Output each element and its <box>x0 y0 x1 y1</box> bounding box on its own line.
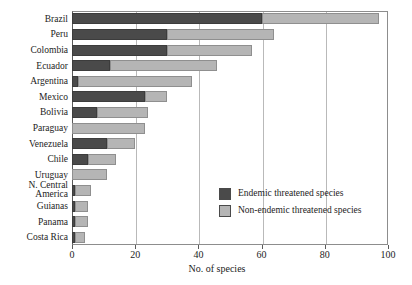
bar-segment-endemic <box>72 29 167 40</box>
y-axis-label: Panama <box>0 217 68 227</box>
bar-segment-non-endemic <box>145 91 167 102</box>
legend-swatch-non-endemic <box>219 205 231 217</box>
bar-segment-endemic <box>72 154 88 165</box>
x-tick-label: 0 <box>70 249 75 261</box>
legend-item-non-endemic: Non-endemic threatened species <box>219 204 379 217</box>
y-axis-category-labels: BrazilPeruColombiaEcuadorArgentinaMexico… <box>0 11 68 245</box>
y-axis-label: Guianas <box>0 201 68 211</box>
bar-segment-non-endemic <box>88 154 116 165</box>
bar-row <box>72 138 388 149</box>
bar-segment-non-endemic <box>167 45 252 56</box>
bar-row <box>72 232 388 243</box>
y-axis-label: Bolivia <box>0 107 68 117</box>
bar-segment-non-endemic <box>72 123 145 134</box>
bar-segment-endemic <box>72 107 97 118</box>
bar-row <box>72 154 388 165</box>
bar-segment-non-endemic <box>110 60 217 71</box>
bar-segment-non-endemic <box>107 138 135 149</box>
bar-segment-non-endemic <box>167 29 274 40</box>
bar-segment-non-endemic <box>75 201 88 212</box>
chart-legend: Endemic threatened species Non-endemic t… <box>219 187 379 221</box>
x-tick-label: 40 <box>193 249 203 261</box>
bar-segment-endemic <box>72 60 110 71</box>
bar-segment-non-endemic <box>97 107 148 118</box>
x-tick-label: 80 <box>320 249 330 261</box>
legend-label-non-endemic: Non-endemic threatened species <box>238 205 361 216</box>
bar-segment-non-endemic <box>75 185 91 196</box>
bar-segment-endemic <box>72 91 145 102</box>
bar-row <box>72 13 388 24</box>
y-axis-label: Chile <box>0 154 68 164</box>
bar-row <box>72 76 388 87</box>
y-axis-label: Ecuador <box>0 61 68 71</box>
y-axis-label: Peru <box>0 29 68 39</box>
y-axis-label: Costa Rica <box>0 232 68 242</box>
bar-row <box>72 29 388 40</box>
bar-row <box>72 91 388 102</box>
bar-segment-endemic <box>72 138 107 149</box>
legend-label-endemic: Endemic threatened species <box>238 188 344 199</box>
bar-row <box>72 123 388 134</box>
y-axis-label: Paraguay <box>0 123 68 133</box>
y-axis-label: Colombia <box>0 45 68 55</box>
legend-item-endemic: Endemic threatened species <box>219 187 379 200</box>
y-axis-label: Mexico <box>0 92 68 102</box>
chart-figure: BrazilPeruColombiaEcuadorArgentinaMexico… <box>0 0 412 285</box>
bar-row <box>72 45 388 56</box>
bar-segment-non-endemic <box>75 232 84 243</box>
bar-segment-endemic <box>72 45 167 56</box>
bar-segment-endemic <box>72 13 262 24</box>
bar-segment-non-endemic <box>72 169 107 180</box>
legend-swatch-endemic <box>219 188 231 200</box>
y-axis-label: N. Central America <box>0 181 68 200</box>
y-axis-label: Argentina <box>0 76 68 86</box>
x-axis-title-text: No. of species <box>189 263 246 274</box>
bar-segment-non-endemic <box>75 216 88 227</box>
y-axis-label: Brazil <box>0 14 68 24</box>
x-tick-label: 20 <box>130 249 140 261</box>
x-tick-label: 100 <box>381 249 396 261</box>
bar-row <box>72 107 388 118</box>
x-tick-label: 60 <box>257 249 267 261</box>
y-axis-label: Uruguay <box>0 170 68 180</box>
y-axis-label: Venezuela <box>0 139 68 149</box>
bar-row <box>72 60 388 71</box>
bar-segment-non-endemic <box>78 76 192 87</box>
bar-segment-non-endemic <box>262 13 379 24</box>
bar-row <box>72 169 388 180</box>
x-axis-title: No. of species <box>0 263 412 274</box>
x-axis-ticks: 020406080100 <box>0 245 412 265</box>
